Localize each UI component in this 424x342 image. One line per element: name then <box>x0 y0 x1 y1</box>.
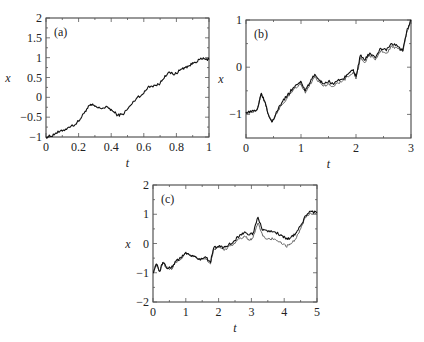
y-tick-label: 0.5 <box>27 71 42 85</box>
trajectory-line <box>46 58 209 139</box>
y-tick-label: 0 <box>236 60 242 74</box>
tick-marks <box>46 18 209 137</box>
x-tick-label: 2 <box>216 305 222 319</box>
data-series <box>46 58 209 139</box>
y-tick-label: 1 <box>36 51 42 65</box>
x-tick-label: 1 <box>183 305 189 319</box>
x-tick-label: 0.4 <box>104 140 119 154</box>
y-axis-label: x <box>217 72 224 86</box>
y-tick-label: −0.5 <box>20 110 42 124</box>
y-tick-label: 0 <box>143 237 149 251</box>
x-tick-label: 0 <box>150 305 156 319</box>
y-tick-label: 1.5 <box>27 31 42 45</box>
trajectory-line <box>246 21 411 122</box>
trajectory-line <box>246 20 411 122</box>
x-tick-label: 0.6 <box>136 140 151 154</box>
x-tick-label: 1 <box>206 140 212 154</box>
x-axis-label: t <box>126 156 130 170</box>
panel-label: (a) <box>54 25 67 39</box>
x-tick-label: 3 <box>408 141 414 155</box>
y-tick-label: 2 <box>143 178 149 192</box>
y-tick-label: 1 <box>236 13 242 27</box>
x-tick-label: 0.8 <box>169 140 184 154</box>
figure: 00.20.40.60.81−1−0.500.511.52 (a) t x 01… <box>0 0 424 342</box>
y-axis-label: x <box>4 71 11 85</box>
x-tick-label: 1 <box>298 141 304 155</box>
data-series <box>246 20 411 122</box>
trajectory-line <box>153 213 317 273</box>
y-tick-label: −2 <box>136 295 149 309</box>
y-tick-label: −1 <box>229 107 242 121</box>
panel-a: 00.20.40.60.81−1−0.500.511.52 (a) t x <box>4 11 212 170</box>
x-tick-label: 0.2 <box>71 140 86 154</box>
data-series <box>153 211 317 273</box>
x-axis-label: t <box>233 321 237 335</box>
y-tick-label: −1 <box>29 130 42 144</box>
x-tick-label: 3 <box>248 305 254 319</box>
y-tick-label: −1 <box>136 266 149 280</box>
panel-label: (b) <box>254 27 268 41</box>
y-axis-label: x <box>124 237 131 251</box>
panel-c: 012345−2−1012 (c) t x <box>124 178 320 335</box>
panel-label: (c) <box>161 192 174 206</box>
x-tick-label: 4 <box>281 305 287 319</box>
y-tick-label: 1 <box>143 207 149 221</box>
y-tick-label: 2 <box>36 11 42 25</box>
x-axis-label: t <box>327 157 331 171</box>
plot-frame <box>46 18 209 137</box>
x-tick-label: 0 <box>43 140 49 154</box>
x-tick-label: 2 <box>353 141 359 155</box>
x-tick-label: 5 <box>314 305 320 319</box>
y-tick-label: 0 <box>36 90 42 104</box>
panel-b: 0123−101 (b) t x <box>217 13 414 171</box>
tick-labels: 00.20.40.60.81−1−0.500.511.52 <box>20 11 212 154</box>
x-tick-label: 0 <box>243 141 249 155</box>
